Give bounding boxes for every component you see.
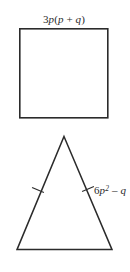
triangle-label-operator: – [109, 184, 120, 196]
geometry-figure-canvas: 3p(p + q) 6p2 – q [0, 0, 130, 272]
triangle-side-label: 6p2 – q [94, 184, 126, 197]
triangle-label-second-term: q [120, 184, 126, 196]
triangle-figure-group: 6p2 – q [17, 137, 126, 250]
geometry-figure-stage: 3p(p + q) 6p2 – q [0, 0, 130, 272]
square-figure-group: 3p(p + q) [20, 13, 108, 118]
square-label-operator: + [64, 13, 76, 25]
square-side-label: 3p(p + q) [43, 13, 85, 26]
square-label-close-paren: ) [81, 13, 85, 26]
right-leg-congruence-tick-icon [82, 187, 94, 192]
square-shape [20, 29, 108, 118]
